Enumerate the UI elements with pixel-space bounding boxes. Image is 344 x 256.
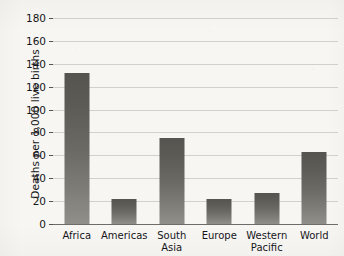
bar bbox=[207, 199, 232, 224]
y-tick-label: 140 bbox=[26, 58, 46, 70]
y-tick-label: 180 bbox=[26, 12, 46, 24]
bar bbox=[302, 152, 327, 224]
y-tick-label: 100 bbox=[26, 104, 46, 116]
y-tick-label: 160 bbox=[26, 35, 46, 47]
bar-chart: Deaths per 1,000 live births 02040608010… bbox=[0, 0, 344, 256]
x-tick-label-line2: Asia bbox=[148, 242, 196, 254]
bar bbox=[159, 138, 184, 224]
y-tick-label: 80 bbox=[33, 126, 46, 138]
bar-group: WesternPacific bbox=[243, 18, 291, 224]
bars: AfricaAmericasSouthAsiaEuropeWesternPaci… bbox=[53, 18, 338, 224]
y-tick-label: 0 bbox=[39, 218, 46, 230]
x-tick-label-line2: Pacific bbox=[243, 242, 291, 254]
x-tick-label: WesternPacific bbox=[243, 224, 291, 253]
bar bbox=[64, 73, 89, 224]
x-tick-label: World bbox=[291, 224, 339, 242]
plot-area: 020406080100120140160180 AfricaAmericasS… bbox=[53, 18, 338, 224]
bar-group: Africa bbox=[53, 18, 101, 224]
bar-group: SouthAsia bbox=[148, 18, 196, 224]
bar-group: Americas bbox=[101, 18, 149, 224]
bar-group: Europe bbox=[196, 18, 244, 224]
y-tick-label: 40 bbox=[33, 172, 46, 184]
bar bbox=[254, 193, 279, 224]
bar bbox=[112, 199, 137, 224]
y-tick-label: 20 bbox=[33, 195, 46, 207]
y-tick-label: 120 bbox=[26, 81, 46, 93]
x-tick-label: Europe bbox=[196, 224, 244, 242]
x-tick-label: SouthAsia bbox=[148, 224, 196, 253]
x-tick-label: Africa bbox=[53, 224, 101, 242]
y-tick-label: 60 bbox=[33, 149, 46, 161]
x-tick-label: Americas bbox=[101, 224, 149, 242]
bar-group: World bbox=[291, 18, 339, 224]
